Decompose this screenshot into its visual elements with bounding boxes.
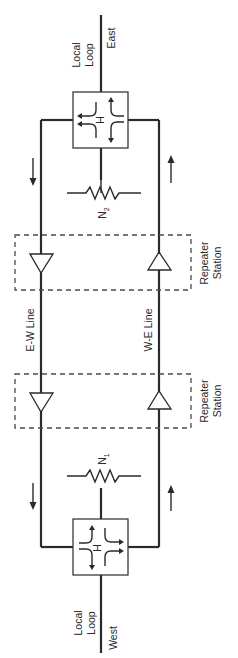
east-local-loop-label-1: Local (70, 42, 82, 67)
ew-amplifier-icon (30, 393, 53, 412)
four-wire-circuit-diagram: East Local Loop H N2 (0, 0, 238, 658)
repeater-station-east-label-2: Station (211, 247, 223, 280)
repeater-station-east-label-1: Repeater (198, 241, 210, 285)
east-hybrid-label: H (94, 116, 106, 124)
west-label: West (107, 626, 119, 650)
resistor-n2-icon (67, 187, 141, 199)
resistor-n1-icon (67, 470, 141, 482)
east-local-loop-label-2: Loop (83, 43, 95, 67)
we-amplifier-icon (148, 391, 171, 409)
ew-amplifier-icon (30, 254, 53, 273)
balance-network-n1: N1 (67, 453, 141, 519)
west-hybrid-label: H (91, 544, 103, 552)
n1-label: N1 (96, 453, 110, 465)
ew-direction-arrow-upper-icon (30, 158, 37, 186)
we-direction-arrow-lower-icon (168, 485, 175, 511)
east-label: East (105, 27, 117, 48)
n2-label: N2 (96, 207, 110, 219)
west-local-loop-label-2: Loop (85, 611, 97, 635)
west-hybrid: H (41, 519, 159, 575)
repeater-station-west-label-1: Repeater (198, 379, 210, 423)
we-amplifier-icon (148, 252, 171, 270)
repeater-station-west-label-2: Station (211, 385, 223, 418)
we-line-label: W-E Line (142, 308, 154, 351)
east-local-loop: East Local Loop (70, 15, 117, 92)
balance-network-n2: N2 (67, 180, 141, 219)
west-local-loop: Local Loop West (72, 575, 119, 653)
ew-line-label: E-W Line (24, 308, 36, 351)
east-hybrid: H (41, 92, 159, 180)
west-local-loop-label-1: Local (72, 610, 84, 635)
repeater-station-east: Repeater Station (15, 235, 223, 290)
ew-direction-arrow-lower-icon (30, 483, 37, 510)
we-direction-arrow-upper-icon (168, 155, 175, 183)
repeater-station-west: Repeater Station (15, 374, 223, 428)
